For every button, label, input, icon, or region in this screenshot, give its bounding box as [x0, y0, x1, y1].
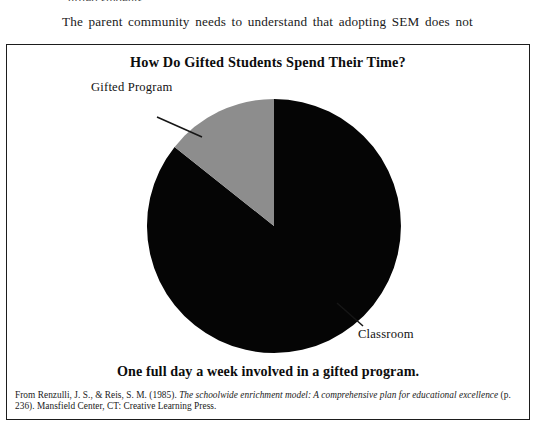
paragraph-line: The parent community needs to understand… [34, 14, 526, 29]
pie-label-classroom: Classroom [358, 327, 414, 342]
pie-label-gifted-program: Gifted Program [91, 80, 173, 95]
chart-caption: One full day a week involved in a gifted… [7, 363, 529, 380]
clipped-text-line: gifted students. [68, 0, 146, 1]
figure-box: How Do Gifted Students Spend Their Time?… [6, 44, 530, 420]
source-citation: From Renzulli, J. S., & Reis, S. M. (198… [15, 390, 523, 413]
source-publisher: Mansfield Center, CT: Creative Learning … [37, 401, 216, 411]
source-prefix: From Renzulli, J. S., & Reis, S. M. (198… [15, 390, 179, 400]
source-italic-title: The schoolwide enrichment model: A compr… [179, 390, 498, 400]
